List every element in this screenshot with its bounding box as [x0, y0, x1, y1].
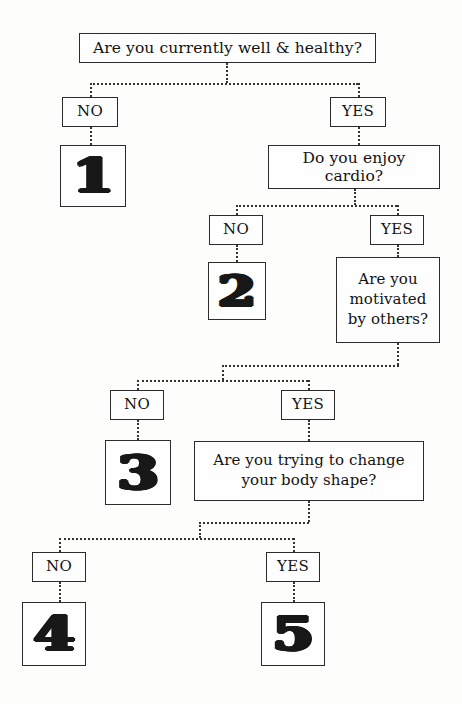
answer-box-yes-1[interactable]: YES: [330, 97, 386, 127]
result-number-2: 2: [218, 270, 255, 312]
question-motivated-line-3: by others?: [348, 310, 428, 330]
connector-q1-stem: [226, 63, 228, 83]
connector-q3-to-yes: [308, 380, 310, 390]
connector-q3-jog-drop: [222, 365, 224, 380]
connector-no3-to-result3: [137, 420, 139, 440]
connector-no4-to-result4: [59, 582, 61, 602]
connector-q3-split: [137, 380, 308, 382]
result-number-3: 3: [117, 449, 158, 495]
connector-q2-to-no: [236, 205, 238, 215]
connector-q1-split: [90, 83, 358, 85]
connector-q4-split: [59, 538, 294, 540]
result-box-1[interactable]: 1: [60, 145, 126, 207]
connector-q4-to-no: [59, 538, 61, 552]
connector-q3-stem: [397, 343, 399, 365]
connector-q2-to-yes: [397, 205, 399, 215]
result-box-5[interactable]: 5: [261, 602, 325, 666]
connector-q4-to-yes: [293, 538, 295, 552]
answer-box-no-1[interactable]: NO: [62, 97, 118, 127]
connector-q4-jog-drop: [199, 522, 201, 538]
connector-q1-to-no: [90, 83, 92, 97]
connector-q1-to-yes: [358, 83, 360, 97]
connector-q4-jog: [199, 522, 309, 524]
question-box-body-shape: Are you trying to change your body shape…: [194, 441, 424, 501]
connector-yes2-to-q3: [397, 245, 399, 257]
result-number-5: 5: [272, 611, 313, 657]
answer-box-yes-2[interactable]: YES: [370, 215, 424, 245]
connector-yes1-to-q2: [358, 127, 360, 145]
answer-box-yes-3[interactable]: YES: [281, 390, 335, 420]
question-body-shape-line-2: your body shape?: [241, 471, 376, 491]
connector-yes4-to-result5: [293, 582, 295, 602]
answer-box-yes-4[interactable]: YES: [266, 552, 320, 582]
question-box-cardio: Do you enjoy cardio?: [268, 145, 440, 189]
result-number-4: 4: [33, 611, 74, 657]
connector-no1-to-result1: [90, 127, 92, 145]
result-box-4[interactable]: 4: [22, 602, 86, 666]
connector-yes3-to-q4: [308, 420, 310, 441]
answer-box-no-4[interactable]: NO: [32, 552, 86, 582]
connector-q3-jog: [222, 365, 399, 367]
answer-box-no-2[interactable]: NO: [209, 215, 263, 245]
connector-no2-to-result2: [236, 245, 238, 262]
result-number-1: 1: [72, 153, 113, 199]
connector-q4-stem: [308, 501, 310, 522]
question-body-shape-line-1: Are you trying to change: [213, 451, 404, 471]
connector-q2-stem: [354, 189, 356, 205]
question-motivated-line-2: motivated: [350, 290, 427, 310]
result-box-2[interactable]: 2: [208, 262, 266, 320]
result-box-3[interactable]: 3: [105, 440, 171, 505]
question-box-motivated: Are you motivated by others?: [336, 257, 440, 343]
answer-box-no-3[interactable]: NO: [110, 390, 164, 420]
question-box-health: Are you currently well & healthy?: [79, 33, 376, 63]
connector-q2-split: [236, 205, 397, 207]
connector-q3-to-no: [137, 380, 139, 390]
flowchart-canvas: Are you currently well & healthy? NO YES…: [0, 0, 462, 704]
question-motivated-line-1: Are you: [358, 270, 418, 290]
